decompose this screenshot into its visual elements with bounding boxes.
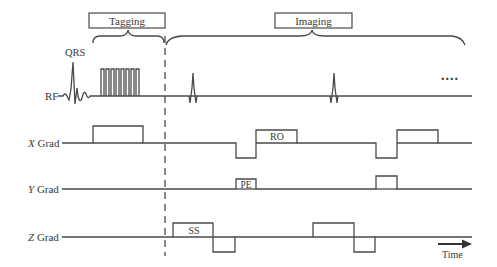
rf-label: RF (45, 90, 58, 102)
tagging-phase-label: Tagging (89, 13, 165, 28)
time-axis-arrow (438, 240, 472, 249)
qrs-label: QRS (65, 47, 86, 58)
rf-channel (58, 62, 472, 104)
phase-encode-label: PE (240, 180, 251, 190)
tagging-brace (93, 30, 164, 43)
continuation-dots: .... (441, 68, 459, 83)
rf-excitation-pulse-1 (189, 73, 197, 103)
tagging-label: Tagging (109, 15, 145, 27)
x-grad-channel: RO (62, 126, 472, 158)
x-grad-label: X Grad (27, 137, 60, 149)
readout-label: RO (270, 131, 284, 142)
imaging-phase-label: Imaging (275, 13, 352, 28)
y-grad-label: Y Grad (28, 183, 59, 195)
y-grad-channel: PE (62, 176, 472, 190)
qrs-waveform (58, 62, 101, 104)
rf-excitation-pulse-2 (330, 73, 338, 103)
time-axis-label: Time (442, 249, 463, 260)
imaging-brace (166, 30, 465, 45)
z-grad-channel: SS (62, 223, 472, 252)
pulse-sequence-diagram: Tagging Imaging QRS RF .... X Grad RO Y … (0, 0, 497, 267)
slice-select-label: SS (188, 225, 199, 236)
z-grad-label: Z Grad (28, 231, 59, 243)
tagging-pulse-train (101, 69, 139, 96)
imaging-label: Imaging (295, 15, 332, 27)
